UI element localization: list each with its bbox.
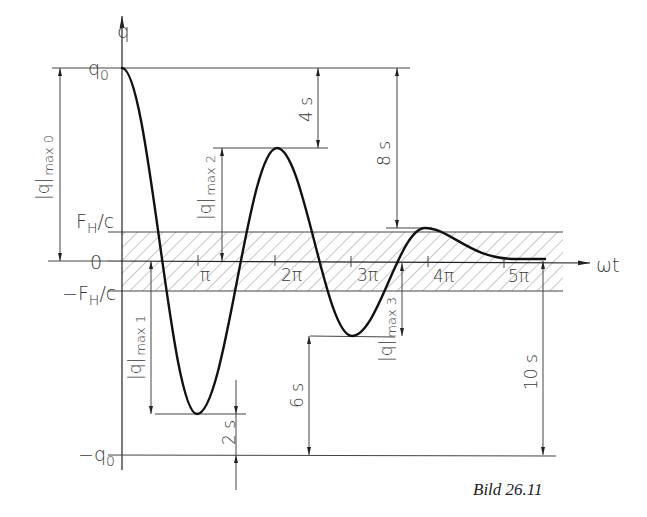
- label-6s: 6 s: [287, 383, 307, 408]
- x-axis-label: ωt: [596, 254, 619, 276]
- x-tick-4pi: 4π: [433, 266, 454, 286]
- y-tick-labels: q0 FH/c 0 −FH/c −q0: [62, 57, 116, 469]
- x-tick-2pi: 2π: [281, 265, 302, 285]
- y-tick-q0: q0: [88, 57, 109, 83]
- y-tick-zero: 0: [90, 251, 102, 273]
- label-qmax3: |q|max 3: [376, 297, 399, 362]
- label-qmax2: |q|max 2: [195, 155, 218, 220]
- label-8s: 8 s: [374, 141, 394, 166]
- label-qmax1: |q|max 1: [125, 315, 148, 380]
- y-tick-minus-fh-c: −FH/c: [62, 282, 116, 308]
- minus-q0-line: [108, 455, 556, 456]
- y-axis-label: q: [117, 19, 130, 43]
- label-qmax0: |q|max 0: [33, 135, 56, 200]
- x-tick-3pi: 3π: [357, 265, 378, 285]
- damped-oscillation-diagram: q ωt q0 FH/c 0 −FH/c −q0 π 2π 3: [0, 0, 647, 517]
- label-2s: 2 s: [219, 420, 239, 445]
- x-tick-pi: π: [200, 265, 210, 285]
- label-4s: 4 s: [296, 97, 316, 122]
- label-10s: 10 s: [521, 354, 541, 390]
- x-tick-5pi: 5π: [508, 266, 529, 286]
- figure-caption: Bild 26.11: [473, 480, 543, 499]
- y-tick-minus-q0: −q0: [78, 443, 115, 469]
